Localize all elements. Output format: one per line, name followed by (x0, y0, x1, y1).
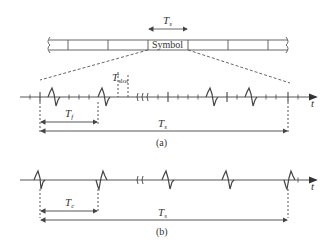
frame-structure (40, 29, 290, 83)
zoom-line-left (40, 50, 148, 80)
chip-duration-label: Tc (65, 196, 75, 210)
symbol-duration-label: Ts (163, 14, 172, 28)
time-axis-label-a: t (311, 97, 315, 109)
time-axis-label-b: t (311, 180, 315, 192)
break-right-icon (286, 37, 288, 53)
break-left-icon (48, 37, 50, 53)
symbol-duration-label-a: Ts (158, 117, 167, 131)
uwb-signal-diagram: Ts Symbol Tslot (0, 0, 331, 249)
panel-b-caption: (b) (156, 226, 168, 238)
panel-a-caption: (a) (156, 137, 167, 149)
symbol-duration-label-b: Ts (158, 206, 167, 220)
frame-duration-label: Tf (65, 107, 74, 121)
panel-a (20, 72, 316, 132)
slot-duration-label: Tslot (112, 71, 128, 85)
zoom-line-right (188, 50, 290, 83)
symbol-cell-label: Symbol (152, 39, 183, 50)
